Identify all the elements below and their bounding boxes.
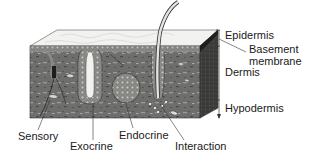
label-interaction: Interaction [175, 140, 226, 152]
skin-diagram: Epidermis Basement membrane Dermis Hypod… [0, 0, 318, 161]
label-hypodermis: Hypodermis [225, 102, 284, 114]
label-endocrine: Endocrine [119, 129, 169, 141]
label-basement-membrane-1: Basement [249, 43, 299, 55]
label-epidermis: Epidermis [225, 29, 274, 41]
exocrine-gland [78, 50, 102, 104]
epidermis-surface [30, 30, 218, 46]
hypodermis-arrow [217, 114, 221, 119]
label-dermis: Dermis [225, 66, 260, 78]
label-exocrine: Exocrine [70, 140, 113, 152]
block-side-face [200, 30, 218, 118]
label-sensory: Sensory [18, 130, 58, 142]
